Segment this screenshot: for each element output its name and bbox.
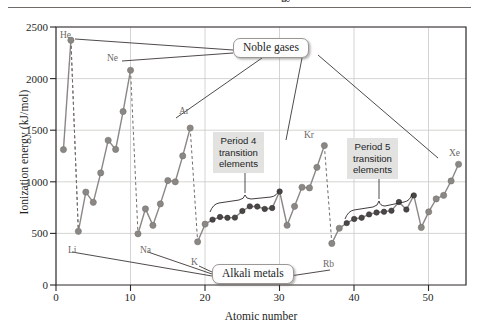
data-point: [135, 231, 141, 237]
data-point: [90, 199, 96, 205]
data-point: [255, 204, 260, 209]
data-point: [344, 220, 349, 225]
brace-period-5: [345, 194, 412, 219]
data-point: [210, 217, 215, 222]
callout-noble-gases[interactable]: Noble gases: [233, 38, 309, 58]
data-point: [150, 222, 156, 228]
data-point: [426, 209, 432, 215]
data-point: [60, 147, 66, 153]
data-point: [269, 205, 274, 210]
point-label-K: K: [191, 257, 198, 267]
data-point: [306, 185, 312, 191]
data-point: [455, 161, 461, 167]
data-point: [404, 207, 409, 212]
data-point: [225, 215, 230, 220]
data-point: [418, 224, 424, 230]
data-point: [284, 222, 290, 228]
data-point: [351, 216, 356, 221]
point-label-He: He: [60, 30, 71, 40]
ionization-energy-figure: Ionization Energy Ionization energy (kJ/…: [0, 0, 479, 330]
data-point: [321, 142, 327, 148]
period-4-line-3: elements: [219, 158, 258, 170]
data-point: [75, 228, 81, 234]
x-tick-marks: [56, 285, 429, 291]
period-5-line-3: elements: [353, 164, 392, 176]
series-line: [78, 70, 130, 231]
data-point: [433, 196, 439, 202]
point-label-Xe: Xe: [449, 148, 460, 158]
data-point: [291, 203, 297, 209]
data-point: [180, 153, 186, 159]
series-line: [138, 128, 190, 234]
data-point: [329, 240, 335, 246]
point-label-Kr: Kr: [304, 130, 314, 140]
data-point: [299, 184, 305, 190]
noble-to-alkali-dashed: [131, 70, 138, 234]
point-label-Na: Na: [140, 245, 151, 255]
data-point: [217, 214, 222, 219]
data-point: [389, 208, 394, 213]
data-point: [172, 179, 178, 185]
data-point: [187, 125, 193, 131]
data-point: [157, 201, 163, 207]
data-point: [336, 225, 342, 231]
point-label-Li: Li: [68, 245, 76, 255]
data-point: [381, 209, 386, 214]
data-point: [83, 189, 89, 195]
data-point: [366, 212, 371, 217]
label-period-5-transition: Period 5 transition elements: [347, 138, 398, 179]
label-period-4-transition: Period 4 transition elements: [213, 132, 264, 173]
data-point: [441, 192, 447, 198]
data-point: [127, 67, 133, 73]
data-point: [98, 170, 104, 176]
data-point: [247, 204, 252, 209]
data-point: [374, 210, 379, 215]
period-5-line-2: transition: [353, 153, 392, 165]
data-point: [202, 221, 208, 227]
y-tick-marks: [50, 27, 56, 285]
data-point: [262, 206, 267, 211]
noble-to-alkali-dashed: [324, 146, 331, 244]
point-label-Ne: Ne: [107, 53, 118, 63]
data-point: [448, 178, 454, 184]
period-4-line-2: transition: [219, 147, 258, 159]
data-point: [113, 146, 119, 152]
data-point: [314, 164, 320, 170]
data-point: [195, 239, 201, 245]
data-point: [359, 215, 364, 220]
data-point: [142, 206, 148, 212]
data-point: [120, 108, 126, 114]
period-4-line-1: Period 4: [219, 135, 258, 147]
period-5-line-1: Period 5: [353, 141, 392, 153]
point-label-Rb: Rb: [323, 259, 334, 269]
noble-to-alkali-dashed: [190, 128, 197, 242]
data-point: [105, 137, 111, 143]
data-point: [232, 215, 237, 220]
callout-alkali-metals[interactable]: Alkali metals: [212, 264, 294, 284]
point-label-Ar: Ar: [179, 106, 189, 116]
data-point: [240, 208, 245, 213]
data-point: [165, 177, 171, 183]
series-line: [63, 40, 70, 149]
he-li-dashed: [71, 40, 78, 231]
